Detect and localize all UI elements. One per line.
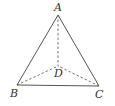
edge-ac: [58, 15, 99, 86]
edge-bc: [17, 85, 99, 86]
vertex-label-b: B: [9, 87, 18, 100]
edge-bd-hidden: [17, 66, 58, 85]
edge-ab: [17, 15, 58, 85]
vertex-label-d: D: [53, 67, 63, 80]
tetrahedron-diagram: A B C D: [0, 0, 115, 106]
vertex-label-c: C: [95, 88, 104, 101]
vertex-label-a: A: [53, 1, 62, 14]
